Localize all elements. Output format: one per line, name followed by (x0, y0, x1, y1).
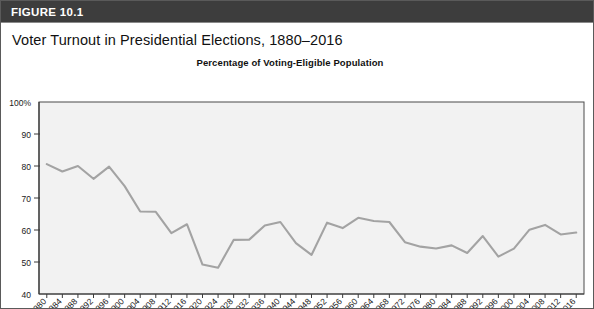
y-axis-tick-label: 80 (22, 162, 32, 172)
line-chart: 405060708090100%188018841888189218961900… (1, 91, 594, 309)
y-axis-tick-label: 40 (22, 290, 32, 300)
figure-body: Voter Turnout in Presidential Elections,… (1, 22, 593, 309)
plot-background (39, 102, 584, 294)
figure-label: FIGURE 10.1 (11, 6, 83, 18)
y-axis-tick-label: 100% (9, 98, 31, 108)
y-axis-tick-label: 90 (22, 130, 32, 140)
figure-header-bar: FIGURE 10.1 (1, 1, 593, 22)
chart-title: Percentage of Voting-Eligible Population (1, 57, 593, 68)
y-axis-tick-label: 50 (22, 258, 32, 268)
page-title: Voter Turnout in Presidential Elections,… (1, 23, 593, 48)
y-axis-tick-label: 60 (22, 226, 32, 236)
figure-container: FIGURE 10.1 Voter Turnout in Presidentia… (0, 0, 594, 309)
chart-plot-area: 405060708090100%188018841888189218961900… (1, 91, 594, 309)
y-axis-tick-label: 70 (22, 194, 32, 204)
